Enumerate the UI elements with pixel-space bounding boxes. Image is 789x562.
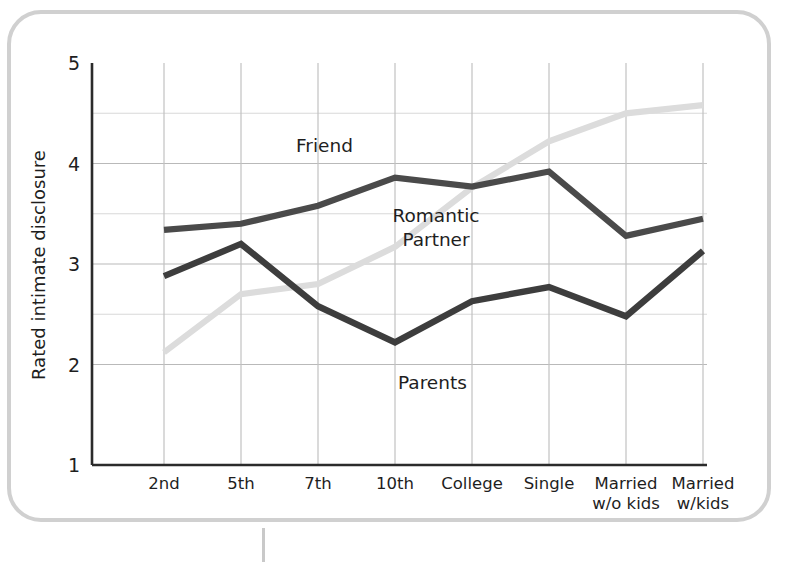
y-axis-title: Rated intimate disclosure: [28, 150, 49, 380]
romantic-partner-label: RomanticPartner: [393, 205, 480, 250]
chart-plot-area: 12345 2nd5th7th10thCollegeSingleMarriedw…: [0, 0, 789, 562]
x-tick-label-single: Single: [524, 474, 575, 493]
parents-label: Parents: [398, 372, 467, 393]
horizontal-gridlines: [92, 113, 707, 364]
friend-label: Friend: [296, 135, 353, 156]
x-tick-label-10th: 10th: [376, 474, 414, 493]
y-tick-label-1: 1: [68, 454, 80, 476]
y-tick-label-3: 3: [68, 253, 80, 275]
x-tick-label-5th: 5th: [227, 474, 254, 493]
x-tick-label-married-w-o-kids: Marriedw/o kids: [592, 474, 660, 513]
y-axis-tick-labels: 12345: [68, 52, 80, 476]
series-line-friend: [164, 172, 703, 236]
y-tick-label-4: 4: [68, 153, 80, 175]
figure-container: 12345 2nd5th7th10thCollegeSingleMarriedw…: [0, 0, 789, 562]
line-chart-svg: 12345 2nd5th7th10thCollegeSingleMarriedw…: [0, 0, 789, 562]
x-tick-label-married-w-kids: Marriedw/kids: [672, 474, 735, 513]
x-tick-label-7th: 7th: [304, 474, 331, 493]
y-tick-label-2: 2: [68, 354, 80, 376]
x-tick-label-2nd: 2nd: [148, 474, 179, 493]
y-tick-label-5: 5: [68, 52, 80, 74]
x-axis-tick-labels: 2nd5th7th10thCollegeSingleMarriedw/o kid…: [148, 474, 734, 513]
x-tick-label-college: College: [441, 474, 503, 493]
